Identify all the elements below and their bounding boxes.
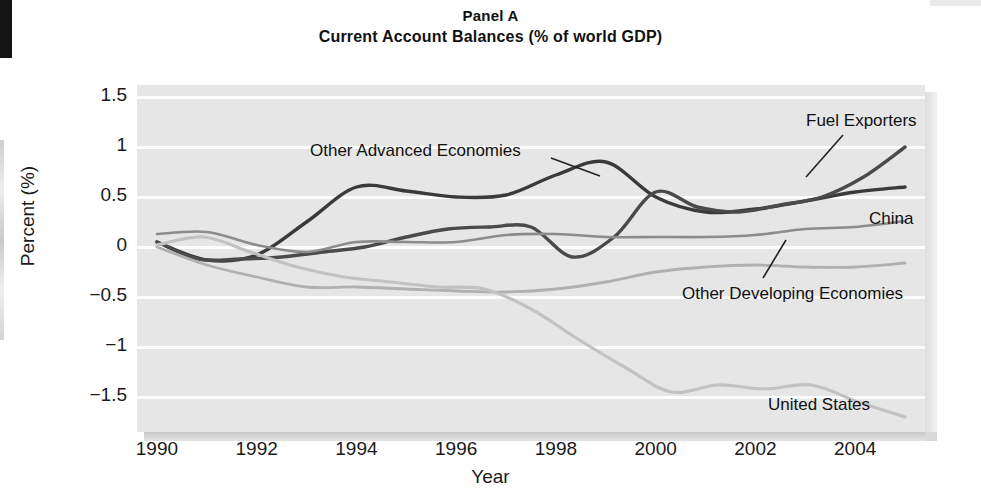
annotation-china: China <box>869 209 913 229</box>
x-tick-label: 2004 <box>815 438 895 460</box>
x-tick-label: 2000 <box>616 438 696 460</box>
series-line <box>157 147 905 260</box>
x-tick-label: 1992 <box>217 438 297 460</box>
annotation-other-advanced: Other Advanced Economies <box>310 141 521 161</box>
annotation-other-developing: Other Developing Economies <box>682 284 903 304</box>
annotation-fuel-exporters: Fuel Exporters <box>806 111 917 131</box>
scan-artifact-left-edge <box>0 140 4 340</box>
panel-3d-right-face <box>925 92 937 439</box>
y-axis-title: Percent (%) <box>17 136 39 296</box>
series-lines <box>137 85 925 432</box>
x-tick-label: 1990 <box>117 438 197 460</box>
panel-label: Panel A <box>0 6 981 26</box>
x-tick-label: 1998 <box>516 438 596 460</box>
chart-title-block: Panel A Current Account Balances (% of w… <box>0 6 981 48</box>
chart-title: Current Account Balances (% of world GDP… <box>0 26 981 48</box>
x-tick-label: 1994 <box>316 438 396 460</box>
x-tick-label: 2002 <box>715 438 795 460</box>
x-tick-label: 1996 <box>416 438 496 460</box>
series-line <box>157 161 905 261</box>
series-line <box>157 237 905 417</box>
x-axis-title: Year <box>0 466 981 488</box>
chart-page: Panel A Current Account Balances (% of w… <box>0 0 981 501</box>
annotation-united-states: United States <box>768 395 870 415</box>
panel-3d-corner <box>925 432 937 441</box>
